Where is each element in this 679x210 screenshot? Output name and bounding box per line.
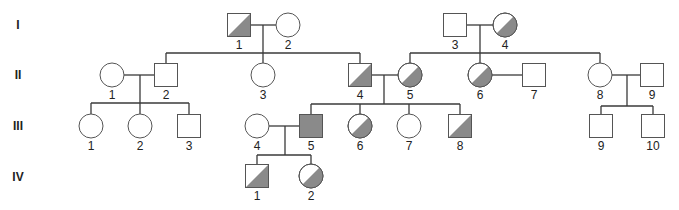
individual-number: 9 xyxy=(649,88,656,102)
female-circle-icon xyxy=(100,63,124,87)
individual-ii-8: 8 xyxy=(588,63,612,102)
individual-number: 7 xyxy=(406,139,413,153)
individual-number: 9 xyxy=(598,139,605,153)
individual-i-4: 4 xyxy=(493,13,517,52)
individual-number: 4 xyxy=(357,88,364,102)
individual-ii-7: 7 xyxy=(523,64,546,103)
female-circle-icon xyxy=(251,63,275,87)
female-circle-icon xyxy=(128,114,152,138)
individual-number: 3 xyxy=(452,38,459,52)
individual-number: 2 xyxy=(163,88,170,102)
individual-iii-7: 7 xyxy=(397,114,421,153)
relationship-lines xyxy=(91,25,653,165)
individual-number: 2 xyxy=(137,139,144,153)
individual-iii-2: 2 xyxy=(128,114,152,153)
individual-number: 3 xyxy=(260,88,267,102)
individual-iii-9: 9 xyxy=(590,115,613,154)
individual-ii-4: 4 xyxy=(349,64,372,103)
female-circle-icon xyxy=(245,114,269,138)
female-circle-icon xyxy=(79,114,103,138)
female-circle-icon xyxy=(397,114,421,138)
individual-number: 8 xyxy=(597,88,604,102)
generation-label: I xyxy=(16,18,19,32)
individual-number: 7 xyxy=(531,88,538,102)
female-circle-icon xyxy=(276,13,300,37)
individual-iii-8: 8 xyxy=(449,115,472,154)
male-square-icon xyxy=(523,64,546,87)
individual-number: 5 xyxy=(407,88,414,102)
individual-number: 4 xyxy=(502,38,509,52)
male-square-icon xyxy=(178,115,201,138)
individual-ii-9: 9 xyxy=(641,64,664,103)
individual-number: 2 xyxy=(308,189,315,203)
individual-ii-3: 3 xyxy=(251,63,275,102)
individual-i-3: 3 xyxy=(444,14,467,53)
individual-iii-3: 3 xyxy=(178,115,201,154)
generation-labels: IIIIIIIV xyxy=(12,18,23,184)
individual-number: 3 xyxy=(186,139,193,153)
male-square-icon xyxy=(444,14,467,37)
individual-number: 1 xyxy=(236,38,243,52)
individual-number: 6 xyxy=(477,88,484,102)
individual-iii-1: 1 xyxy=(79,114,103,153)
individuals: 12341234567891234567891012 xyxy=(79,13,665,203)
individual-number: 5 xyxy=(308,139,315,153)
individual-iv-2: 2 xyxy=(299,164,323,203)
individual-number: 1 xyxy=(88,139,95,153)
male-square-icon xyxy=(155,64,178,87)
male-square-icon xyxy=(642,115,665,138)
individual-number: 10 xyxy=(646,139,660,153)
affected-fill xyxy=(300,115,323,138)
pedigree-diagram: IIIIIIIV 12341234567891234567891012 xyxy=(0,0,679,210)
female-circle-icon xyxy=(588,63,612,87)
individual-iii-10: 10 xyxy=(642,115,665,154)
individual-ii-5: 5 xyxy=(398,63,422,102)
individual-i-1: 1 xyxy=(228,14,251,53)
male-square-icon xyxy=(590,115,613,138)
generation-label: III xyxy=(13,119,23,133)
individual-number: 2 xyxy=(285,38,292,52)
individual-iii-4: 4 xyxy=(245,114,269,153)
individual-number: 1 xyxy=(254,189,261,203)
generation-label: II xyxy=(15,68,22,82)
individual-number: 4 xyxy=(254,139,261,153)
individual-iv-1: 1 xyxy=(246,165,269,204)
individual-iii-5: 5 xyxy=(300,115,323,154)
individual-ii-2: 2 xyxy=(155,64,178,103)
male-square-icon xyxy=(641,64,664,87)
generation-label: IV xyxy=(12,170,23,184)
individual-number: 6 xyxy=(357,139,364,153)
individual-number: 8 xyxy=(457,139,464,153)
individual-ii-1: 1 xyxy=(100,63,124,102)
individual-number: 1 xyxy=(109,88,116,102)
individual-iii-6: 6 xyxy=(348,114,372,153)
individual-i-2: 2 xyxy=(276,13,300,52)
individual-ii-6: 6 xyxy=(468,63,492,102)
